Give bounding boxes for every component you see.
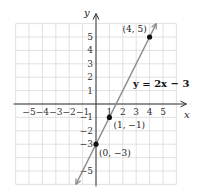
x-tick-label: 2 xyxy=(120,107,126,117)
y-tick-label: 1 xyxy=(87,86,93,96)
x-axis-label: x xyxy=(184,109,190,120)
x-tick-label: −2 xyxy=(63,107,76,117)
x-tick-label: −3 xyxy=(49,107,63,117)
data-point xyxy=(93,142,98,147)
point-label: (1, −1) xyxy=(113,120,145,130)
point-label: (4, 5) xyxy=(123,24,147,34)
x-tick-label: 3 xyxy=(133,107,139,117)
x-tick-label: −5 xyxy=(22,107,36,117)
y-tick-label: −3 xyxy=(80,139,94,149)
equation-label: y = 2x − 3 xyxy=(132,78,189,89)
data-point xyxy=(107,115,112,120)
y-tick-label: 2 xyxy=(87,72,93,82)
y-tick-label: −2 xyxy=(80,126,93,136)
point-label: (0, −3) xyxy=(99,148,131,158)
coordinate-plane: −5−4−3−2−11234554321−1−2−3−5 (4, 5)(1, −… xyxy=(0,0,202,194)
y-axis-label: y xyxy=(83,7,90,18)
y-tick-label: −5 xyxy=(80,166,94,176)
y-tick-label: 5 xyxy=(87,32,93,42)
x-tick-label: 5 xyxy=(160,107,166,117)
y-tick-label: −1 xyxy=(80,112,93,122)
y-tick-label: 4 xyxy=(87,45,93,55)
x-tick-label: −4 xyxy=(36,107,50,117)
x-tick-label: 4 xyxy=(147,107,153,117)
y-tick-label: 3 xyxy=(87,59,93,69)
axes xyxy=(14,14,187,187)
data-point xyxy=(147,34,152,39)
